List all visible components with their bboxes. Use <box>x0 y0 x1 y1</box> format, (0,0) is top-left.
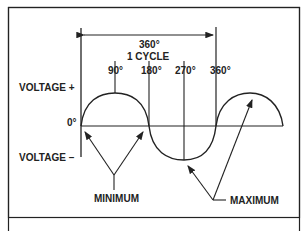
cycle-label: 1 CYCLE <box>127 51 169 62</box>
zero-degree-label: 0° <box>67 117 77 128</box>
degree-270-label: 270° <box>175 65 196 76</box>
minimum-label: MINIMUM <box>94 193 139 204</box>
voltage-minus-label: VOLTAGE – <box>19 152 74 163</box>
degree-90-label: 90° <box>108 65 123 76</box>
minimum-arrow-left <box>85 132 114 175</box>
degree-360-label: 360° <box>210 65 231 76</box>
maximum-arrow-trough <box>188 166 213 200</box>
minimum-arrow-right <box>114 132 143 175</box>
degree-180-label: 180° <box>141 65 162 76</box>
maximum-label: MAXIMUM <box>230 195 279 206</box>
voltage-plus-label: VOLTAGE + <box>19 82 74 93</box>
cycle-degrees-label: 360° <box>139 39 160 50</box>
